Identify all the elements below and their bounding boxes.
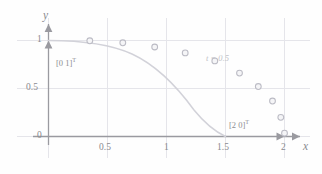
- data-point: [282, 130, 288, 136]
- data-point: [255, 84, 261, 90]
- start-vector-text: [0 1]: [56, 58, 72, 68]
- y-axis: [45, 24, 53, 145]
- data-point: [182, 50, 188, 56]
- data-point: [152, 44, 158, 50]
- start-vector-label: [0 1]T: [56, 57, 76, 67]
- end-vector-transpose: T: [245, 118, 249, 125]
- data-point: [120, 40, 126, 46]
- data-point: [237, 70, 243, 76]
- x-axis-label: x: [303, 141, 308, 153]
- start-vector-transpose: T: [72, 56, 76, 63]
- y-tick-0-5: 0.5: [26, 83, 38, 93]
- time-annotation-label: t = 0.5: [206, 54, 229, 63]
- x-tick-0-5: 0.5: [99, 143, 111, 153]
- data-point: [270, 98, 276, 104]
- data-point: [278, 114, 284, 120]
- x-tick-1: 1: [164, 143, 169, 153]
- data-points: [87, 38, 288, 136]
- x-tick-1-5: 1.5: [217, 143, 229, 153]
- y-tick-0: 0: [37, 131, 42, 141]
- y-tick-1: 1: [37, 35, 42, 45]
- data-point: [87, 38, 93, 44]
- trajectory-plot: [0, 0, 322, 174]
- y-axis-label: y: [43, 10, 48, 22]
- x-tick-2: 2: [281, 143, 286, 153]
- figure-container: 1 0.5 0 0.5 1 1.5 2 y x [0 1]T [2 0]T t …: [0, 0, 322, 174]
- end-vector-text: [2 0]: [229, 120, 245, 130]
- end-vector-label: [2 0]T: [229, 119, 249, 129]
